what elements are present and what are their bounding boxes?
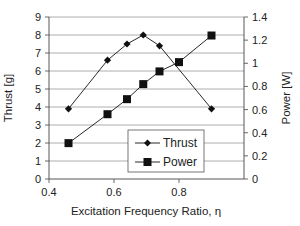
y-left-tick-label: 7 [35,47,41,59]
y-left-tick-label: 1 [35,155,41,167]
y-left-axis-title: Thrust [g] [2,74,14,123]
x-tick-label: 0.4 [41,186,56,198]
power-point [208,32,216,40]
y-right-axis-title: Power [W] [280,71,292,124]
power-point [175,58,183,66]
x-axis-title: Excitation Frequency Ratio, η [71,205,221,217]
y-left-tick-label: 8 [35,29,41,41]
x-tick-label: 0.8 [171,186,186,198]
legend: Thrust Power [128,130,204,172]
power-point [104,110,112,118]
y-right-tick-label: 1.4 [252,11,267,23]
y-left-tick-label: 9 [35,11,41,23]
y-left-tick-label: 0 [35,173,41,185]
y-right-tick-label: 0 [252,173,258,185]
y-right-tick-label: 0.8 [252,80,267,92]
legend-power-marker-icon [144,158,152,166]
thrust-line [69,35,212,109]
thrust-point [140,31,147,38]
chart: 012345678900.20.40.60.811.21.40.40.60.8 … [0,0,300,226]
y-left-tick-label: 6 [35,65,41,77]
y-left-tick-label: 4 [35,101,41,113]
y-left-tick-label: 3 [35,119,41,131]
y-right-tick-label: 0.2 [252,150,267,162]
y-left-tick-label: 2 [35,137,41,149]
y-right-tick-label: 1 [252,57,258,69]
y-left-tick-label: 5 [35,83,41,95]
power-point [65,139,73,147]
y-right-tick-label: 0.6 [252,104,267,116]
y-right-tick-label: 1.2 [252,34,267,46]
power-point [156,67,164,75]
legend-power-label: Power [163,155,197,169]
legend-thrust-label: Thrust [163,136,198,150]
y-right-tick-label: 0.4 [252,127,267,139]
power-point [123,95,131,103]
power-point [139,80,147,88]
x-tick-label: 0.6 [106,186,121,198]
